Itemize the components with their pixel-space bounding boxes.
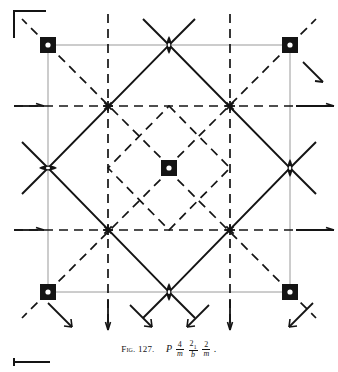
- space-group-symbol: P 4 m 21 b 2 m .: [166, 343, 217, 354]
- term-1-denominator: m: [176, 349, 184, 358]
- glide-arrow-outer-left-upper: [14, 104, 44, 107]
- 2-fold-axis-bottom-center: [167, 283, 172, 301]
- space-group-diagram: [0, 0, 338, 372]
- 2-fold-axis-right-center: [288, 159, 293, 177]
- glide-arrow-bottom-inner-right: [187, 305, 209, 327]
- term-2-subscript: 1: [194, 343, 197, 349]
- 4-fold-axis-bottom-right: [282, 284, 298, 300]
- four-fold-axis-symbols: [40, 37, 298, 300]
- glide-arrow-outer-left-lower: [14, 228, 44, 231]
- 2_1-screw-node-lower-left: [103, 225, 113, 235]
- term-1-numerator: 4: [176, 341, 184, 349]
- 2_1-screw-node-upper-left: [103, 101, 113, 111]
- symbol-term-1: 4 m: [176, 341, 184, 358]
- 2-fold-axis-left-center: [39, 166, 57, 171]
- figure-page: Fig. 127. P 4 m 21 b 2 m .: [0, 0, 338, 372]
- figure-caption: Fig. 127. P 4 m 21 b 2 m .: [0, 340, 338, 359]
- symbol-term-2: 21 b: [189, 340, 198, 359]
- 4-fold-axis-bottom-left: [40, 284, 56, 300]
- 4-fold-axis-top-right: [282, 37, 298, 53]
- 2_1-screw-node-lower-right: [225, 225, 235, 235]
- term-2-numerator: 21: [189, 340, 198, 350]
- glide-arrow-bottom-vertical-left: [106, 300, 111, 330]
- symbol-term-3: 2 m: [202, 341, 210, 358]
- axes-corner-bracket: [14, 11, 46, 38]
- glide-arrow-topright-diagonal: [303, 62, 323, 82]
- glide-arrow-outer-right-upper: [296, 104, 334, 107]
- glide-arrow-bottom-right-diagonal: [289, 303, 313, 327]
- glide-arrow-bottom-inner-left: [130, 305, 152, 327]
- lattice-letter: P: [166, 343, 172, 354]
- term-3-denominator: m: [202, 349, 210, 358]
- scale-corner-bracket: [14, 358, 50, 366]
- term-2-denominator: b: [189, 350, 198, 359]
- caption-period: .: [214, 343, 217, 354]
- 4-fold-axis-top-left: [40, 37, 56, 53]
- glide-arrow-bottom-left-diagonal: [48, 303, 72, 327]
- 2-fold-axis-top-center: [167, 36, 172, 54]
- glide-arrow-outer-right-lower: [296, 228, 334, 231]
- term-3-numerator: 2: [202, 341, 210, 349]
- figure-number: Fig. 127.: [121, 344, 154, 354]
- glide-arrow-bottom-vertical-right: [228, 300, 233, 330]
- 2_1-screw-node-upper-right: [225, 101, 235, 111]
- 4-fold-axis-center: [161, 160, 177, 176]
